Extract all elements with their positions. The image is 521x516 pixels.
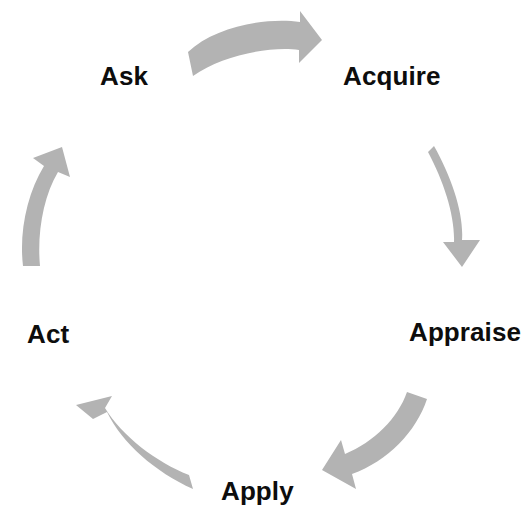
stage-label-acquire: Acquire [343, 63, 441, 89]
arrow-apply-to-act-icon [76, 396, 193, 489]
cycle-diagram: Ask Acquire Appraise Apply Act [0, 0, 521, 516]
stage-label-ask: Ask [100, 63, 148, 89]
stage-label-apply: Apply [221, 478, 294, 504]
arrow-acquire-to-appraise-icon [428, 146, 480, 267]
arrow-ask-to-acquire-icon [188, 11, 322, 76]
arrow-appraise-to-apply-icon [322, 392, 427, 489]
arrow-act-to-ask-icon [22, 147, 70, 266]
stage-label-appraise: Appraise [409, 319, 521, 345]
stage-label-act: Act [27, 321, 69, 347]
arrow-layer [0, 0, 521, 516]
